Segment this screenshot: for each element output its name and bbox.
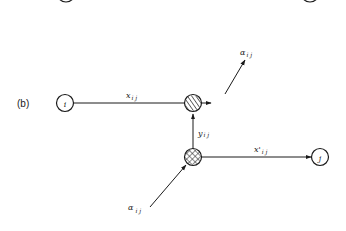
node-j: j — [312, 149, 329, 166]
edge-label-alpha-in: αi j — [128, 203, 141, 215]
panel-label: (b) — [17, 98, 29, 109]
previous-panel-node-right — [301, 0, 319, 2]
edge-label-alpha-out: αi j — [240, 48, 252, 59]
split-node-hatched — [185, 95, 202, 112]
edge-label-y-ij: yi j — [197, 129, 209, 139]
edge-alpha-in — [150, 165, 186, 207]
edge-label-x-prime-ij: x'i j — [254, 145, 268, 156]
edge-alpha-out — [225, 60, 245, 94]
previous-panel-node-left — [57, 0, 75, 2]
edge-label-x-ij: xi j — [126, 91, 137, 102]
node-i: i — [57, 95, 74, 112]
network-diagram: (b) xi j αi j yi j x'i j αi j i j — [0, 0, 346, 231]
merge-node-crosshatched — [185, 149, 202, 166]
node-i-label: i — [64, 100, 67, 109]
